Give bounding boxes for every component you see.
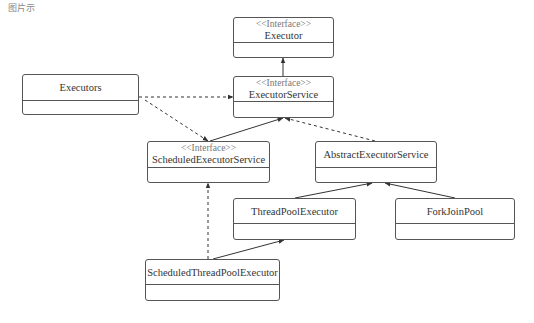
edge-executors-scheduledexecutorservice xyxy=(145,100,208,141)
stereotype-label: <<Interface>> xyxy=(181,143,236,153)
class-scheduled-thread-pool-executor: ScheduledThreadPoolExecutor xyxy=(145,259,280,301)
class-name: Executors xyxy=(60,81,102,94)
class-name: AbstractExecutorService xyxy=(324,148,429,161)
class-executor: <<Interface>> Executor xyxy=(233,17,334,58)
class-abstract-executor-service: AbstractExecutorService xyxy=(315,141,437,183)
class-thread-pool-executor: ThreadPoolExecutor xyxy=(233,198,356,240)
class-fork-join-pool: ForkJoinPool xyxy=(395,198,515,240)
edge-forkjoinpool-abstractexecutorservice xyxy=(385,183,455,198)
edge-threadpoolexecutor-abstractexecutorservice xyxy=(295,183,372,198)
class-scheduled-executor-service: <<Interface>> ScheduledExecutorService xyxy=(147,141,270,183)
class-name: Executor xyxy=(265,29,303,42)
edge-scheduledthreadpoolexecutor-threadpoolexecutor xyxy=(213,240,284,259)
class-name: ScheduledExecutorService xyxy=(152,153,265,166)
class-name: ThreadPoolExecutor xyxy=(251,205,338,218)
class-name: ScheduledThreadPoolExecutor xyxy=(147,266,278,279)
class-name: ForkJoinPool xyxy=(427,205,484,218)
class-executors: Executors xyxy=(22,74,139,115)
edge-scheduledexecutorservice-executorservice xyxy=(210,118,283,141)
stereotype-label: <<Interface>> xyxy=(256,78,311,88)
class-executor-service: <<Interface>> ExecutorService xyxy=(233,76,334,118)
class-name: ExecutorService xyxy=(249,88,318,101)
edge-abstractexecutorservice-executorservice xyxy=(285,118,375,141)
stereotype-label: <<Interface>> xyxy=(256,19,311,29)
